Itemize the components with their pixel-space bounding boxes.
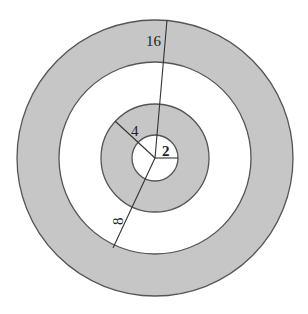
- label-radius-16: 16: [146, 33, 162, 49]
- label-radius-4: 4: [131, 123, 139, 139]
- concentric-circles-diagram: 16 8 4 2: [0, 0, 308, 314]
- label-radius-2: 2: [162, 143, 170, 159]
- label-radius-8: 8: [110, 218, 126, 226]
